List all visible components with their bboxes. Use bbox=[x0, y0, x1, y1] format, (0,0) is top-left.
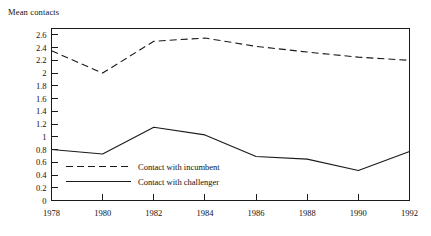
chart-legend: Contact with incumbent Contact with chal… bbox=[66, 162, 220, 187]
y-tick-label-1.6: 1.6 bbox=[36, 94, 47, 104]
x-tick-label-1980: 1980 bbox=[94, 208, 111, 218]
x-tick-label-1982: 1982 bbox=[145, 208, 162, 218]
x-tick-label-1978: 1978 bbox=[43, 208, 60, 218]
x-axis-tick-marks bbox=[103, 194, 359, 201]
plot-frame bbox=[52, 29, 410, 201]
legend-label-incumbent: Contact with incumbent bbox=[138, 162, 220, 172]
y-tick-label-1.2: 1.2 bbox=[36, 119, 47, 129]
series-line-contact-with-challenger bbox=[52, 127, 410, 170]
x-tick-label-1984: 1984 bbox=[196, 208, 214, 218]
y-tick-label-2.2: 2.2 bbox=[36, 55, 47, 65]
x-tick-label-1992: 1992 bbox=[401, 208, 418, 218]
y-tick-label-0.2: 0.2 bbox=[36, 183, 47, 193]
y-tick-label-2.6: 2.6 bbox=[36, 30, 47, 40]
x-tick-label-1986: 1986 bbox=[248, 208, 265, 218]
x-axis-tick-labels: 19781980198219841986198819901992 bbox=[43, 208, 418, 218]
y-tick-label-0: 0 bbox=[42, 196, 46, 206]
line-chart-plot: 00.20.40.60.811.21.41.61.822.22.42.6 197… bbox=[0, 0, 431, 236]
x-tick-label-1988: 1988 bbox=[299, 208, 316, 218]
y-axis-tick-labels: 00.20.40.60.811.21.41.61.822.22.42.6 bbox=[36, 30, 47, 206]
y-axis-tick-marks bbox=[52, 35, 58, 201]
y-tick-label-1.4: 1.4 bbox=[36, 106, 47, 116]
x-tick-label-1990: 1990 bbox=[350, 208, 367, 218]
chart-figure: Mean contacts 00.20.40.60.811.21.41.61.8… bbox=[0, 0, 431, 236]
y-tick-label-0.6: 0.6 bbox=[36, 157, 47, 167]
y-tick-label-0.8: 0.8 bbox=[36, 145, 47, 155]
y-tick-label-0.4: 0.4 bbox=[36, 170, 47, 180]
legend-label-challenger: Contact with challenger bbox=[138, 177, 219, 187]
series-line-contact-with-incumbent bbox=[52, 38, 410, 73]
y-tick-label-1.8: 1.8 bbox=[36, 81, 47, 91]
y-tick-label-2: 2 bbox=[42, 68, 46, 78]
y-tick-label-2.4: 2.4 bbox=[36, 43, 47, 53]
y-tick-label-1: 1 bbox=[42, 132, 46, 142]
